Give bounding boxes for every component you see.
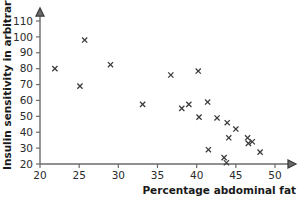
- data-points: [52, 37, 262, 165]
- data-point-marker: [233, 126, 238, 131]
- data-point-marker: [221, 155, 226, 160]
- data-point-marker: [214, 115, 219, 120]
- y-tick-label: 60: [20, 94, 33, 106]
- x-tick-label: 45: [229, 169, 242, 181]
- data-point-marker: [258, 149, 263, 154]
- x-axis-ticks: 20253035404550: [33, 164, 281, 181]
- data-point-marker: [52, 66, 57, 71]
- plot-area: 2030405060708090100110 20253035404550 Pe…: [0, 0, 300, 198]
- y-tick-label: 20: [20, 158, 33, 170]
- data-point-marker: [179, 106, 184, 111]
- y-tick-label: 30: [20, 142, 33, 154]
- data-point-marker: [205, 99, 210, 104]
- y-axis-arrow-up-icon: [36, 8, 44, 16]
- y-tick-label: 80: [20, 62, 33, 74]
- scatter-chart: 2030405060708090100110 20253035404550 Pe…: [0, 0, 300, 198]
- data-point-marker: [140, 102, 145, 107]
- y-tick-label: 70: [20, 78, 33, 90]
- x-axis-arrow-right-icon: [288, 160, 296, 168]
- data-point-marker: [82, 37, 87, 42]
- y-axis-title: Insulin sensitivity in arbitrary units: [1, 0, 13, 170]
- data-point-marker: [225, 120, 230, 125]
- axis-lines: [36, 8, 296, 168]
- x-tick-label: 20: [33, 169, 46, 181]
- x-tick-label: 50: [268, 169, 281, 181]
- data-point-marker: [186, 102, 191, 107]
- y-tick-label: 90: [20, 46, 33, 58]
- x-tick-label: 25: [72, 169, 85, 181]
- y-tick-label: 40: [20, 126, 33, 138]
- y-tick-label: 110: [13, 15, 33, 27]
- data-point-marker: [196, 115, 201, 120]
- data-point-marker: [168, 72, 173, 77]
- data-point-marker: [196, 68, 201, 73]
- data-point-marker: [108, 62, 113, 67]
- y-tick-label: 50: [20, 110, 33, 122]
- x-tick-label: 30: [112, 169, 125, 181]
- y-tick-label: 100: [13, 31, 33, 43]
- x-tick-label: 35: [151, 169, 164, 181]
- x-axis-title: Percentage abdominal fat: [142, 184, 296, 196]
- y-axis-ticks: 2030405060708090100110: [13, 15, 40, 170]
- data-point-marker: [226, 135, 231, 140]
- x-tick-label: 40: [190, 169, 203, 181]
- data-point-marker: [77, 84, 82, 89]
- data-point-marker: [206, 147, 211, 152]
